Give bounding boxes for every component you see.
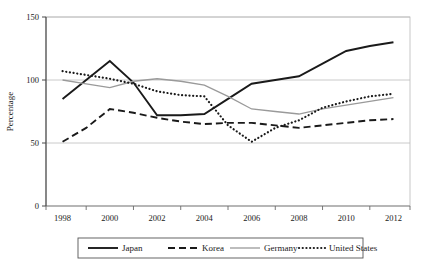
x-tick-label-2012: 2012 [385, 213, 402, 223]
line-chart: 0501001501998200020022004200620082010201… [0, 0, 424, 266]
series-line-japan [63, 42, 394, 115]
x-tick-label-2004: 2004 [196, 213, 214, 223]
y-axis-title: Percentage [5, 92, 15, 131]
legend-label-japan: Japan [122, 243, 143, 253]
plot-area-border [46, 17, 410, 206]
x-tick-label-2010: 2010 [338, 213, 355, 223]
y-tick-label-150: 150 [26, 12, 39, 22]
x-tick-label-2002: 2002 [149, 213, 166, 223]
x-tick-label-1998: 1998 [54, 213, 71, 223]
chart-canvas: 0501001501998200020022004200620082010201… [0, 0, 424, 266]
x-tick-label-2008: 2008 [290, 213, 307, 223]
y-tick-label-100: 100 [26, 75, 39, 85]
series-line-united-states [63, 71, 394, 142]
x-tick-label-2000: 2000 [101, 213, 118, 223]
legend-label-germany: Germany [264, 243, 298, 253]
x-tick-label-2006: 2006 [243, 213, 260, 223]
y-tick-label-50: 50 [31, 138, 40, 148]
y-tick-label-0: 0 [35, 201, 39, 211]
legend-label-united-states: United States [329, 243, 378, 253]
legend-label-korea: Korea [202, 243, 224, 253]
